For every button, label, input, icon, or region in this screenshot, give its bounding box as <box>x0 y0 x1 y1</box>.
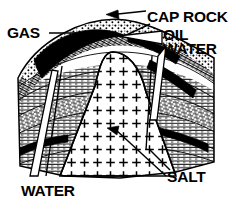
label-water-bottom: WATER <box>21 182 75 199</box>
label-water-right: WATER <box>163 40 217 57</box>
label-salt: SALT <box>167 168 206 185</box>
label-gas: GAS <box>7 24 40 41</box>
label-cap-rock: CAP ROCK <box>147 8 229 25</box>
cross-section-drawing: GAS CAP ROCK OIL WATER WATER SALT <box>0 0 235 206</box>
salt-dome-cross-section-figure: GAS CAP ROCK OIL WATER WATER SALT <box>0 0 235 206</box>
